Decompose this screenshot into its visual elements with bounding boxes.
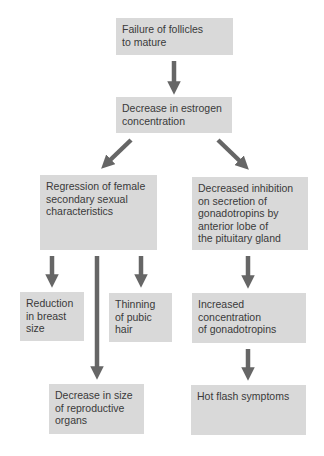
node-decreased-inhibition: Decreased inhibition on secretion of gon…: [192, 177, 308, 250]
node-decrease-reproductive-organs: Decrease in size of reproductive organs: [49, 384, 144, 434]
node-thinning-pubic-hair: Thinning of pubic hair: [109, 293, 172, 342]
node-regression-secondary-characteristics: Regression of female secondary sexual ch…: [40, 175, 157, 250]
arrow-estrogen-to-regression: [106, 140, 131, 164]
node-hot-flash-symptoms: Hot flash symptoms: [191, 385, 306, 435]
node-increased-gonadotropins: Increased concentration of gonadotropins: [192, 293, 306, 343]
node-reduction-breast-size: Reduction in breast size: [20, 292, 84, 341]
node-decrease-estrogen: Decrease in estrogen concentration: [116, 97, 232, 133]
node-failure-of-follicles: Failure of follicles to mature: [116, 18, 233, 55]
arrow-estrogen-to-inhibition: [218, 140, 244, 165]
